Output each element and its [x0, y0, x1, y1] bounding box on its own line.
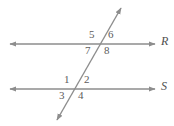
line-label-s: S	[161, 80, 167, 92]
angle-label-8: 8	[104, 45, 110, 56]
angle-label-5: 5	[89, 29, 95, 40]
line-label-r: R	[161, 35, 168, 47]
angle-label-4: 4	[78, 90, 84, 101]
line-transversal	[57, 8, 121, 120]
geometry-figure: R S 5 6 7 8 1 2 3 4	[0, 0, 174, 126]
angle-label-3: 3	[59, 90, 65, 101]
angle-label-7: 7	[85, 45, 91, 56]
angle-label-2: 2	[84, 74, 90, 85]
angle-label-1: 1	[64, 74, 70, 85]
angle-label-6: 6	[108, 29, 114, 40]
figure-canvas	[0, 0, 174, 126]
